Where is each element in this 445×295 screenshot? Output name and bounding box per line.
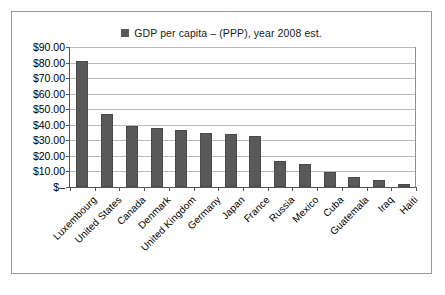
bar[interactable]: [126, 126, 138, 187]
bar[interactable]: [76, 61, 88, 187]
bar[interactable]: [299, 164, 311, 187]
bar[interactable]: [200, 133, 212, 187]
bar[interactable]: [373, 180, 385, 187]
bar[interactable]: [225, 134, 237, 187]
y-axis-tick-label: $60.00: [33, 88, 65, 100]
bar[interactable]: [249, 136, 261, 187]
bar-slot: [169, 47, 194, 187]
bar-slot: [342, 47, 367, 187]
bar[interactable]: [348, 177, 360, 187]
legend-label: GDP per capita – (PPP), year 2008 est.: [134, 27, 321, 39]
plot-area: $90.00$80.00$70.00$60.00$50.00$40.00$30.…: [69, 47, 416, 188]
bar[interactable]: [101, 114, 113, 187]
y-axis-tick-label: $40.00: [33, 119, 65, 131]
bar-slot: [144, 47, 169, 187]
bar-slot: [243, 47, 268, 187]
bar-slot: [317, 47, 342, 187]
chart-legend: GDP per capita – (PPP), year 2008 est.: [12, 27, 431, 39]
x-axis-category-label: Mexico: [291, 194, 322, 225]
y-axis-tick-label: $–: [53, 181, 65, 193]
bar-slot: [292, 47, 317, 187]
bar[interactable]: [151, 128, 163, 187]
bar-slot: [70, 47, 95, 187]
x-axis-tick-mark: [416, 187, 417, 191]
bar-slot: [268, 47, 293, 187]
bar[interactable]: [175, 130, 187, 187]
y-axis-tick-label: $20.00: [33, 150, 65, 162]
x-axis-category-label: Haiti: [398, 194, 420, 216]
y-axis-tick-label: $30.00: [33, 134, 65, 146]
bar-slot: [194, 47, 219, 187]
bar[interactable]: [274, 161, 286, 187]
x-axis-category-label: Iraq: [375, 194, 395, 214]
y-axis-tick-label: $90.00: [33, 41, 65, 53]
x-axis-labels: LuxembourgUnited StatesCanadaDenmarkUnit…: [70, 187, 416, 267]
y-axis-tick-label: $10.00: [33, 165, 65, 177]
y-axis-tick-label: $70.00: [33, 72, 65, 84]
bar[interactable]: [324, 172, 336, 187]
y-axis-tick-label: $80.00: [33, 57, 65, 69]
legend-swatch-icon: [121, 29, 129, 37]
bar-slot: [119, 47, 144, 187]
bar-series: [70, 47, 416, 187]
y-axis-tick-label: $50.00: [33, 103, 65, 115]
bar-slot: [218, 47, 243, 187]
x-axis-category-label: France: [242, 194, 272, 224]
chart-frame: GDP per capita – (PPP), year 2008 est. $…: [11, 11, 432, 274]
bar-slot: [391, 47, 416, 187]
bar-slot: [95, 47, 120, 187]
bar-slot: [367, 47, 392, 187]
